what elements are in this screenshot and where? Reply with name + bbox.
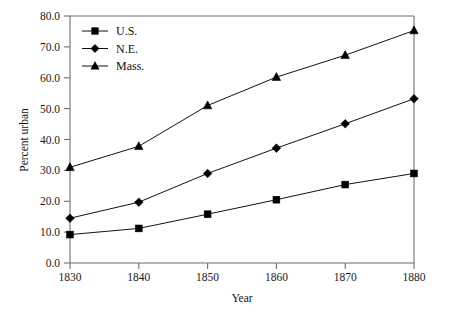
y-tick-label-80: 80.0: [40, 10, 60, 22]
y-tick-label-60: 60.0: [40, 72, 60, 84]
legend-label: Mass.: [116, 59, 144, 73]
y-tick-label-10: 10.0: [40, 226, 60, 238]
data-point: [135, 225, 142, 232]
y-axis-title: Percent urban: [18, 108, 30, 172]
legend-label: N.E.: [116, 42, 138, 56]
data-point: [204, 211, 211, 218]
x-tick-label-1850: 1850: [196, 271, 219, 283]
y-tick-label-30: 30.0: [40, 164, 60, 176]
y-axis-tick-labels: 0.0 10.0 20.0 30.0 40.0 50.0 60.0 70.0 8…: [40, 10, 60, 269]
data-point: [411, 170, 418, 177]
y-tick-label-20: 20.0: [40, 195, 60, 207]
legend-marker: [92, 28, 98, 34]
data-point: [67, 231, 74, 238]
x-axis-title: Year: [231, 292, 252, 304]
y-tick-label-40: 40.0: [40, 134, 60, 146]
x-tick-label-1880: 1880: [403, 271, 426, 283]
chart-container: 0.0 10.0 20.0 30.0 40.0 50.0 60.0 70.0 8…: [0, 0, 456, 315]
x-tick-label-1870: 1870: [334, 271, 357, 283]
x-tick-label-1830: 1830: [59, 271, 82, 283]
line-chart: 0.0 10.0 20.0 30.0 40.0 50.0 60.0 70.0 8…: [0, 0, 456, 315]
legend-label: U.S.: [116, 24, 137, 38]
x-tick-label-1860: 1860: [265, 271, 288, 283]
y-tick-label-50: 50.0: [40, 103, 60, 115]
data-point: [273, 196, 280, 203]
x-tick-label-1840: 1840: [127, 271, 150, 283]
y-tick-label-70: 70.0: [40, 41, 60, 53]
data-point: [342, 181, 349, 188]
y-tick-label-0: 0.0: [46, 257, 61, 269]
